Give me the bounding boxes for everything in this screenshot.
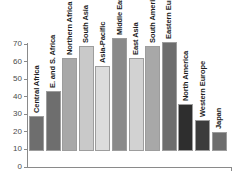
bar-category-label: Asia-Pacific [99, 21, 107, 62]
bar-category-label: Middle East [116, 0, 124, 35]
y-axis-tick-label: 70 [13, 39, 22, 49]
bar-category-label: East Asia [132, 22, 140, 55]
y-axis-tick: 10 [0, 144, 28, 154]
bar-category-label: North America [182, 50, 190, 100]
bar[interactable] [145, 46, 160, 151]
y-axis-tick-label: 60 [13, 57, 22, 67]
bar-category-label: Western Europe [199, 61, 207, 117]
bar[interactable] [112, 38, 127, 151]
bar[interactable] [29, 116, 44, 151]
bar[interactable] [62, 58, 77, 151]
y-axis-tick: 60 [0, 57, 28, 67]
y-axis-tick: 0 [0, 162, 28, 172]
y-axis-tick-label: 30 [13, 109, 22, 119]
bar-category-label: Japan [215, 107, 223, 128]
bar-category-label: Eastern Europe [165, 0, 173, 39]
bar-category-label: Central Africa [33, 65, 41, 113]
bar-category-label: E. and S. Africa [49, 35, 57, 88]
bar[interactable] [95, 66, 110, 151]
y-axis-tick: 20 [0, 127, 28, 137]
y-axis-tick-label: 40 [13, 92, 22, 102]
y-axis-tick-label: 20 [13, 127, 22, 137]
y-axis-tick-label: 0 [18, 162, 22, 172]
bar[interactable] [79, 46, 94, 151]
bar-chart-figure: 706050403020100 Central AfricaE. and S. … [0, 0, 236, 184]
bar[interactable] [162, 42, 177, 151]
y-axis-tick: 40 [0, 92, 28, 102]
bar-category-label: South America [149, 0, 157, 43]
bar[interactable] [46, 91, 61, 151]
bar[interactable] [129, 58, 144, 151]
y-axis-tick-label: 10 [13, 144, 22, 154]
y-axis-tick: 70 [0, 39, 28, 49]
bar[interactable] [195, 120, 210, 151]
y-axis-tick: 50 [0, 74, 28, 84]
bar[interactable] [178, 104, 193, 151]
bars-layer: Central AfricaE. and S. AfricaNorthern A… [28, 0, 232, 168]
bar[interactable] [212, 132, 227, 151]
y-axis-tick: 30 [0, 109, 28, 119]
bar-category-label: South Asia [82, 5, 90, 43]
bar-category-label: Northern Africa [66, 2, 74, 55]
y-axis-tick-label: 50 [13, 74, 22, 84]
